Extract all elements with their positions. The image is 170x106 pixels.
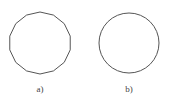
circle-shape-b xyxy=(99,13,159,73)
panel-label-a: a) xyxy=(37,84,44,94)
panel-label-b: b) xyxy=(125,84,133,94)
figure-canvas xyxy=(0,0,170,106)
polygon-shape-a xyxy=(10,12,70,74)
